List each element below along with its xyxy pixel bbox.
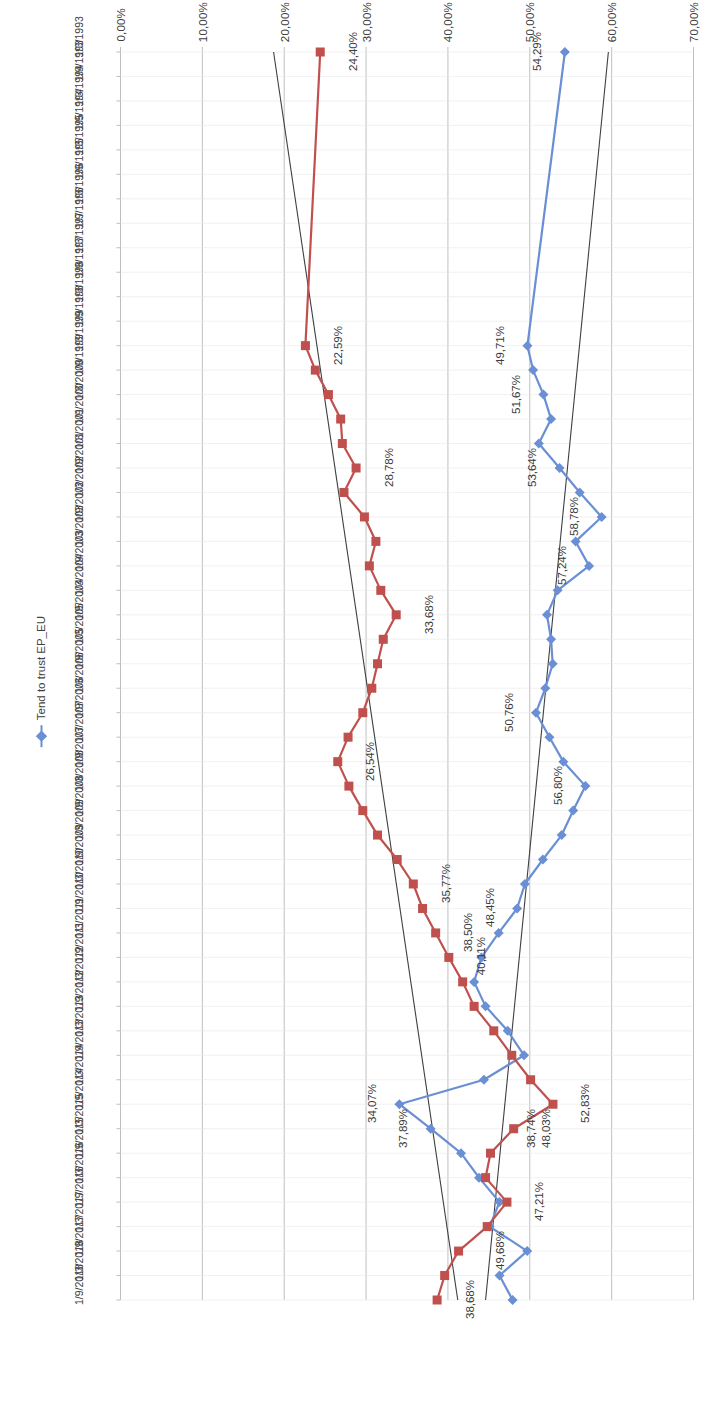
y-axis-tick-label: 40,00% xyxy=(441,2,453,42)
data-label: 49,71% xyxy=(493,326,505,365)
y-axis-tick-label: 70,00% xyxy=(687,2,699,42)
data-label: 53,64% xyxy=(525,448,537,487)
data-label: 48,45% xyxy=(483,888,495,927)
data-label: 49,68% xyxy=(493,1231,505,1270)
data-label: 57,24% xyxy=(555,546,567,585)
data-label: 28,78% xyxy=(382,448,394,487)
y-axis-tick-label: 10,00% xyxy=(196,2,208,42)
y-axis-tick-label: 20,00% xyxy=(278,2,290,42)
data-label: 38,74% xyxy=(524,1109,536,1148)
data-label: 48,03% xyxy=(539,1109,551,1148)
y-axis-tick-label: 0,00% xyxy=(114,8,126,42)
data-label: 37,89% xyxy=(396,1109,408,1148)
y-axis-tick-label: 60,00% xyxy=(605,2,617,42)
chart-legend[interactable]: Tend to trust EP_EU xyxy=(34,616,46,747)
data-label: 35,77% xyxy=(439,864,451,903)
data-label: 26,54% xyxy=(363,742,375,781)
data-label: 52,83% xyxy=(578,1084,590,1123)
chart-svg xyxy=(0,0,727,1420)
data-label: 51,67% xyxy=(509,375,521,414)
y-axis-tick-label: 30,00% xyxy=(360,2,372,42)
data-label: 24,40% xyxy=(346,32,358,71)
data-label: 33,68% xyxy=(422,595,434,634)
data-label: 38,68% xyxy=(463,1280,475,1319)
data-label: 38,50% xyxy=(461,913,473,952)
x-axis-tick-label: 1/9/2018 xyxy=(72,1264,84,1305)
data-label: 47,21% xyxy=(532,1182,544,1221)
rotated-chart-canvas: 70,00%60,00%50,00%40,00%30,00%20,00%10,0… xyxy=(0,0,727,1420)
legend-label: Tend to trust EP_EU xyxy=(34,616,46,720)
legend-marker-icon xyxy=(40,725,42,747)
data-label: 50,76% xyxy=(502,693,514,732)
data-label: 56,80% xyxy=(551,766,563,805)
data-label: 34,07% xyxy=(365,1084,377,1123)
data-label: 22,59% xyxy=(331,326,343,365)
chart-screenshot: 70,00%60,00%50,00%40,00%30,00%20,00%10,0… xyxy=(0,0,727,1420)
data-label: 58,78% xyxy=(567,497,579,536)
plot-area: 70,00%60,00%50,00%40,00%30,00%20,00%10,0… xyxy=(0,0,727,1420)
data-label: 40,11% xyxy=(474,937,486,975)
data-label: 54,29% xyxy=(530,32,542,71)
